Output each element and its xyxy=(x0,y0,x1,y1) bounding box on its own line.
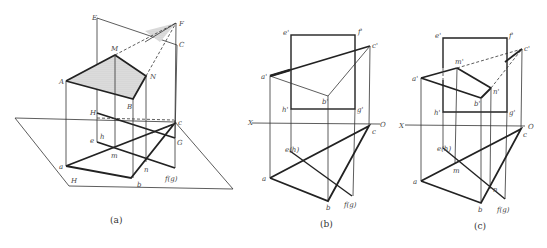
label-g-prime: g' xyxy=(509,109,515,117)
caption-a: (a) xyxy=(110,215,122,225)
plane-trace-ef xyxy=(97,142,175,168)
label-f-prime: f' xyxy=(508,32,514,40)
figure-b: e' f' c' a' b' h' g' X O c e(h) a b f(g)… xyxy=(247,28,386,229)
label-f-prime: f' xyxy=(357,28,363,36)
projection-diagrams: E F M N A B C H G e h m n a b c f(g) H (… xyxy=(0,0,547,248)
label-a-prime: a' xyxy=(261,73,267,81)
figure-a: E F M N A B C H G e h m n a b c f(g) H (… xyxy=(15,14,233,225)
label-m: m xyxy=(453,167,460,175)
label-fg: f(g) xyxy=(343,201,357,209)
label-b: b xyxy=(478,206,483,214)
label-plane-H: H xyxy=(70,177,78,185)
x-axis xyxy=(252,123,380,124)
label-m-prime: m' xyxy=(455,58,464,66)
label-h-prime: h' xyxy=(282,106,289,114)
label-F: F xyxy=(178,20,185,28)
label-n: n xyxy=(493,186,498,194)
label-c: c xyxy=(372,128,376,136)
label-eh: e(h) xyxy=(285,146,299,154)
plane-edge-HG xyxy=(97,113,175,138)
label-h-prime: h' xyxy=(434,109,441,117)
label-a-prime: a' xyxy=(412,75,418,83)
label-N: N xyxy=(149,73,157,81)
label-a: a xyxy=(262,175,266,183)
label-M: M xyxy=(110,45,119,53)
label-fg: f(g) xyxy=(496,206,510,214)
label-fg: f(g) xyxy=(164,175,178,183)
label-b-prime: b' xyxy=(322,98,328,106)
label-b-prime: b' xyxy=(474,100,480,108)
caption-b: (b) xyxy=(320,219,333,229)
label-h: h xyxy=(100,133,105,141)
label-E: E xyxy=(91,14,97,22)
label-O: O xyxy=(528,123,534,131)
label-G: G xyxy=(177,139,183,147)
label-a: a xyxy=(413,178,417,186)
label-X: X xyxy=(247,119,254,127)
label-H: H xyxy=(89,109,97,117)
label-n: n xyxy=(144,166,149,174)
label-g-prime: g' xyxy=(357,106,363,114)
label-a: a xyxy=(59,163,63,171)
label-A: A xyxy=(58,78,64,86)
label-b: b xyxy=(326,204,331,212)
horizontal-plane xyxy=(15,118,233,189)
label-c: c xyxy=(523,131,527,139)
caption-c: (c) xyxy=(474,221,486,231)
label-X: X xyxy=(398,122,405,130)
label-C: C xyxy=(179,41,185,49)
label-c-prime: c' xyxy=(372,42,378,50)
label-e-prime: e' xyxy=(283,29,289,37)
label-O: O xyxy=(380,121,386,129)
label-n-prime: n' xyxy=(493,88,500,96)
label-B: B xyxy=(126,103,132,111)
label-e-prime: e' xyxy=(435,32,441,40)
figure-c: e' f' c' m' a' n' b' h' g' X O c e(h) m … xyxy=(398,32,534,231)
label-b: b xyxy=(137,181,142,189)
label-m: m xyxy=(111,152,118,160)
label-c: c xyxy=(178,119,182,127)
diagram-canvas: E F M N A B C H G e h m n a b c f(g) H (… xyxy=(0,0,547,248)
label-eh: e(h) xyxy=(437,145,451,153)
label-c-prime: c' xyxy=(524,45,530,53)
label-e: e xyxy=(90,137,94,145)
